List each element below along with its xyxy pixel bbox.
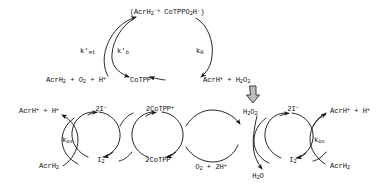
link-bot-left bbox=[119, 152, 132, 161]
right-cycle-iodide-label: 2I− bbox=[287, 106, 299, 113]
arc-cotpp-left bbox=[132, 112, 152, 157]
left-cycle-acrh-plus-label: AcrH+ + H+ bbox=[19, 108, 59, 115]
right-rate-kox-label: kox bbox=[314, 136, 325, 145]
arrow-to-h2o2 bbox=[186, 110, 240, 126]
arc-right-cycle-left bbox=[265, 113, 285, 158]
right-h2o-label: H2O bbox=[252, 173, 264, 182]
left-cycle-i2-label: I2 bbox=[97, 157, 104, 166]
top-intermediate-label: (AcrH2·+ CoTPPO2H·) bbox=[130, 9, 205, 18]
arc-left-cycle-left bbox=[72, 112, 93, 157]
center-h2o2-label: H2O2 bbox=[243, 109, 258, 118]
center-o2-label: O2 + 2H+ bbox=[195, 164, 227, 173]
left-rate-kox-label: kox bbox=[62, 136, 73, 145]
right-cycle-acrh2-label: AcrH2 bbox=[330, 163, 350, 172]
arc-center-bottom bbox=[186, 145, 238, 162]
arc-cotpp-right bbox=[162, 112, 183, 157]
cotpp-plus-cycle-label: 2CoTPP+ bbox=[146, 106, 174, 113]
arrow-h2o2-to-h2o bbox=[253, 116, 262, 169]
cotpp-cycle-label: 2CoTPP bbox=[145, 157, 170, 164]
top-reactants-label: AcrH2 + O2 + H+ bbox=[46, 77, 106, 86]
arc-left-cycle-right bbox=[99, 112, 120, 157]
left-cycle-acrh2-label: AcrH2 bbox=[39, 163, 59, 172]
thick-down-arrow bbox=[247, 86, 260, 103]
link-top-left bbox=[120, 113, 133, 126]
reaction-scheme-canvas bbox=[0, 0, 384, 190]
rate-k-et-label: k'et bbox=[80, 47, 95, 56]
right-cycle-acrh-plus-label: AcrH+ + H+ bbox=[330, 108, 370, 115]
right-cycle-i2-label: I2 bbox=[289, 157, 296, 166]
top-products-label: AcrH+ + H2O2 bbox=[203, 77, 250, 86]
left-cycle-iodide-label: 2I− bbox=[95, 106, 107, 113]
rate-k-b-label: k'b bbox=[117, 47, 129, 56]
top-cotpp-plus-label: CoTPP+ bbox=[130, 77, 154, 84]
rate-k-h-label: kH bbox=[196, 47, 204, 56]
